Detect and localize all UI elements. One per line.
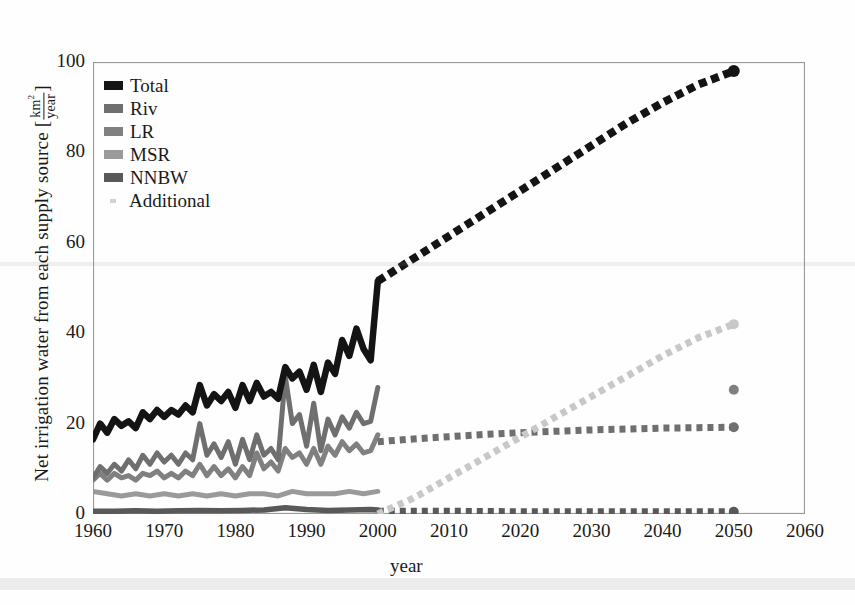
y-tick-label: 100 [39, 50, 85, 72]
x-tick-label: 2010 [414, 520, 484, 542]
legend-swatch-icon [104, 81, 123, 90]
historical-line [93, 491, 378, 496]
endpoint-marker [729, 422, 739, 432]
x-tick-label: 2060 [770, 520, 840, 542]
legend-item-label: NNBW [130, 168, 188, 187]
legend-item-label: LR [130, 122, 154, 141]
projection-line [378, 427, 734, 441]
x-tick-label: 1960 [58, 520, 128, 542]
chart-figure: Net irrigation water from each supply so… [0, 0, 855, 605]
y-tick-label: 20 [39, 412, 85, 434]
x-tick-label: 1990 [272, 520, 342, 542]
legend-item-label: Total [130, 76, 169, 95]
legend-item-nnbw[interactable]: NNBW [104, 166, 284, 189]
y-tick-label: 40 [39, 321, 85, 343]
endpoint-marker [729, 319, 739, 329]
legend-swatch-icon [104, 104, 123, 113]
x-tick-label: 2050 [699, 520, 769, 542]
series-msr [93, 491, 378, 496]
x-tick-label: 1980 [200, 520, 270, 542]
legend-item-total[interactable]: Total [104, 74, 284, 97]
legend-swatch-icon [104, 127, 123, 136]
y-tick-label: 60 [39, 231, 85, 253]
x-tick-label: 1970 [129, 520, 199, 542]
series-lr [93, 385, 739, 480]
scan-artifact-bottom [0, 578, 855, 590]
projection-line [378, 324, 734, 514]
endpoint-marker [728, 65, 740, 77]
historical-line [93, 508, 378, 512]
legend-item-label: Riv [130, 99, 157, 118]
y-axis-unit: [km2year] [31, 85, 52, 127]
legend-item-label: Additional [129, 191, 210, 210]
legend-swatch-icon [104, 173, 123, 182]
x-tick-label: 2030 [556, 520, 626, 542]
series-additional [378, 319, 739, 514]
x-tick-label: 2020 [485, 520, 555, 542]
legend-item-msr[interactable]: MSR [104, 143, 284, 166]
series-riv [93, 376, 739, 478]
chart-legend: TotalRivLRMSRNNBWAdditional [104, 74, 284, 212]
x-tick-label: 2000 [343, 520, 413, 542]
series-nnbw [93, 507, 739, 514]
x-tick-label: 2040 [628, 520, 698, 542]
legend-swatch-icon [104, 150, 123, 159]
endpoint-marker [729, 507, 739, 514]
endpoint-marker [729, 385, 739, 395]
projection-line [378, 71, 734, 281]
legend-item-label: MSR [130, 145, 170, 164]
legend-item-additional[interactable]: Additional [104, 189, 284, 212]
x-axis-label: year [390, 555, 423, 577]
historical-line [93, 281, 378, 439]
y-tick-label: 80 [39, 140, 85, 162]
legend-swatch-icon [110, 199, 116, 203]
legend-item-lr[interactable]: LR [104, 120, 284, 143]
legend-item-riv[interactable]: Riv [104, 97, 284, 120]
